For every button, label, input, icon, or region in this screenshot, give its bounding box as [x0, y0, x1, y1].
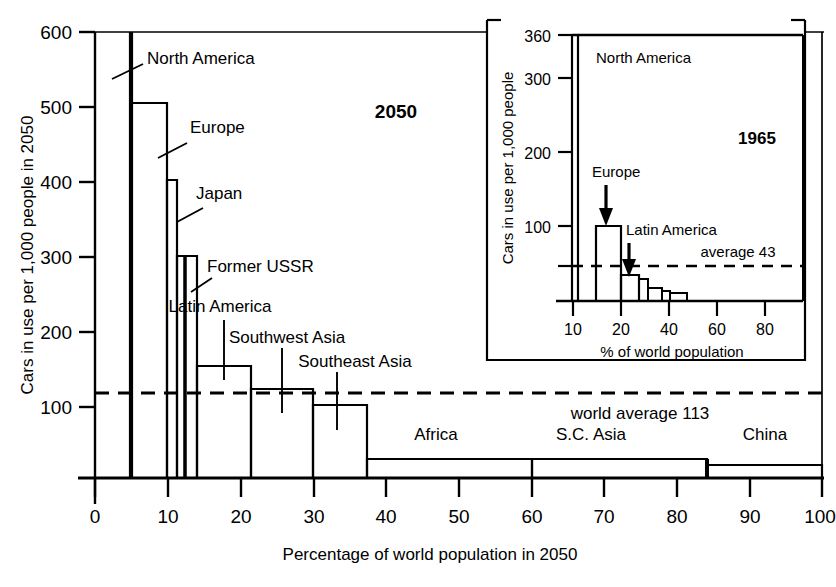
inset-x-tick-label: 10: [564, 321, 582, 338]
label-southwest-asia: Southwest Asia: [229, 328, 346, 347]
main-x-tick-label: 0: [90, 506, 101, 527]
label-europe: Europe: [190, 118, 245, 137]
inset-y-tick-label: 360: [524, 28, 551, 45]
main-y-tick-label: 100: [40, 397, 72, 418]
main-x-tick-label: 100: [804, 506, 836, 527]
inset-label-latin-america: Latin America: [626, 221, 718, 238]
main-x-tick-label: 90: [739, 506, 760, 527]
main-x-tick-label: 70: [593, 506, 614, 527]
inset-y-tick-label: 200: [524, 145, 551, 162]
main-x-tick-label: 80: [666, 506, 687, 527]
inset-x-tick-label: 20: [612, 321, 630, 338]
main-world-average-label: world average 113: [570, 404, 710, 423]
inset-label-north-america: North America: [596, 49, 692, 66]
main-year-stamp: 2050: [375, 101, 417, 122]
label-north-america: North America: [147, 49, 255, 68]
inset-average-label: average 43: [700, 243, 775, 260]
inset-y-tick-label: 300: [524, 71, 551, 88]
chart-svg: 600 500 400 300 200 100 Cars in use per …: [0, 0, 836, 587]
inset-x-tick-label: 40: [660, 321, 678, 338]
main-y-tick-label: 500: [40, 97, 72, 118]
inset-year-stamp: 1965: [738, 129, 776, 148]
label-japan: Japan: [196, 184, 242, 203]
label-latin-america: Latin America: [169, 297, 273, 316]
figure-canvas: 600 500 400 300 200 100 Cars in use per …: [0, 0, 836, 587]
label-china: China: [743, 425, 788, 444]
main-y-tick-label: 200: [40, 322, 72, 343]
main-y-tick-label: 400: [40, 172, 72, 193]
main-x-axis-title: Percentage of world population in 2050: [283, 545, 578, 564]
inset-y-axis-title: Cars in use per 1,000 people: [499, 72, 516, 265]
main-x-tick-label: 50: [448, 506, 469, 527]
main-y-tick-label: 600: [40, 22, 72, 43]
label-sc-asia: S.C. Asia: [556, 425, 626, 444]
inset-x-tick-label: 80: [756, 321, 774, 338]
main-x-tick-label: 40: [375, 506, 396, 527]
inset-chart: 360 300 200 100 Cars in use per 1,000 pe…: [487, 20, 805, 360]
main-x-tick-label: 20: [230, 506, 251, 527]
inset-x-axis-title: % of world population: [600, 343, 743, 360]
label-former-ussr: Former USSR: [207, 257, 314, 276]
main-x-tick-label: 60: [521, 506, 542, 527]
label-africa: Africa: [414, 425, 458, 444]
inset-label-europe: Europe: [592, 163, 640, 180]
main-y-axis-title: Cars in use per 1,000 people in 2050: [18, 116, 37, 395]
inset-y-tick-label: 100: [524, 219, 551, 236]
main-x-tick-label: 10: [157, 506, 178, 527]
inset-x-tick-label: 60: [708, 321, 726, 338]
label-southeast-asia: Southeast Asia: [298, 352, 412, 371]
main-y-tick-label: 300: [40, 247, 72, 268]
main-x-tick-label: 30: [303, 506, 324, 527]
